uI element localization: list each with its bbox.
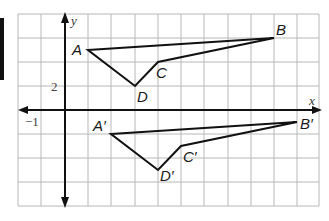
vertex-label-b: B bbox=[276, 22, 286, 37]
x-axis-label: x bbox=[309, 94, 315, 107]
vertex-label-d-prime: D′ bbox=[160, 168, 174, 183]
coordinate-plane: y x 2 −1 A B C D A′ B′ C′ D′ bbox=[0, 0, 329, 221]
vertex-label-c: C bbox=[156, 65, 167, 80]
vertex-label-a: A bbox=[72, 42, 82, 57]
y-axis-label: y bbox=[71, 14, 77, 27]
vertex-label-d: D bbox=[137, 89, 148, 104]
x-axis bbox=[18, 106, 322, 114]
y-tick-label: 2 bbox=[51, 80, 58, 93]
vertex-label-b-prime: B′ bbox=[300, 116, 313, 131]
vertex-label-a-prime: A′ bbox=[93, 118, 106, 133]
x-tick-label: −1 bbox=[25, 115, 39, 128]
vertex-label-c-prime: C′ bbox=[183, 149, 197, 164]
